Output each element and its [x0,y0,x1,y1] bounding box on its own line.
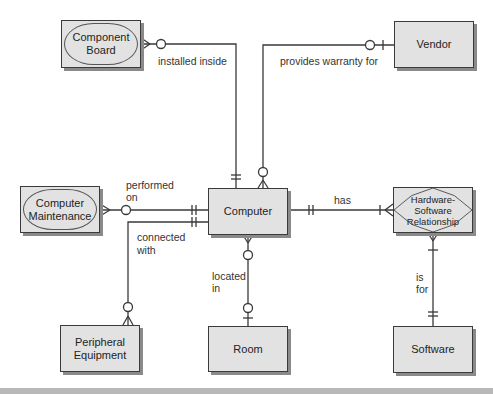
entity-software[interactable]: Software [393,326,473,373]
entity-component-board[interactable]: ComponentBoard [61,20,141,68]
entity-label: Software [411,343,454,356]
entity-label: Equipment [74,349,127,361]
entity-computer[interactable]: Computer [208,188,288,235]
entity-peripheral-equipment[interactable]: PeripheralEquipment [60,325,140,372]
entity-label: Vendor [417,38,452,51]
relationship-located-in-2: in [212,282,220,294]
er-diagram: ComponentBoard Vendor ComputerMaintenanc… [0,0,493,394]
entity-room[interactable]: Room [208,326,288,372]
entity-label: Hardware- [411,194,455,205]
relationship-performed-on-2: on [126,191,138,203]
entity-vendor[interactable]: Vendor [394,21,474,68]
relationship-connected-with-1: connected [137,231,185,243]
entity-label: Board [86,44,115,56]
relationship-is-for-1: is [416,271,424,283]
entity-label: Maintenance [29,210,92,222]
relationship-has: has [334,194,351,206]
bottom-divider [0,388,493,394]
relationship-is-for-2: for [416,283,428,295]
entity-label: Relationship [407,216,459,227]
relationship-provides-warranty-for: provides warranty for [280,55,378,67]
relationship-connected-with-2: with [137,244,156,256]
entity-label: Computer [224,205,272,218]
entity-computer-maintenance[interactable]: ComputerMaintenance [20,186,100,233]
relationship-located-in-1: located [212,270,246,282]
entity-label: Computer [36,197,84,209]
entity-label: Room [233,343,262,356]
entity-label: Peripheral [75,336,125,348]
entity-label: Software [414,205,452,216]
relationship-performed-on-1: performed [126,179,174,191]
relationship-installed-inside: installed inside [158,55,227,67]
entity-label: Component [73,31,130,43]
entity-hardware-software-relationship[interactable]: Hardware-SoftwareRelationship [393,187,473,233]
